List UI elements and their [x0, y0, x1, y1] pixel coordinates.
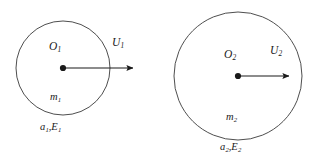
particle-2-mass-subscript: 2: [234, 116, 237, 123]
particle-2-center-subscript: 2: [232, 53, 236, 62]
particle-1-mass-label: m1: [50, 92, 61, 103]
particle-1-modulus-symbol: E: [51, 121, 57, 132]
particle-2-center-label: O2: [224, 49, 236, 61]
particle-1-mass-subscript: 1: [58, 96, 61, 103]
particle-2-properties-label: a2,E2: [220, 142, 241, 153]
particle-2-mass-symbol: m: [226, 111, 234, 122]
particle-2-modulus-subscript: 2: [238, 146, 241, 153]
particle-1-center-dot: [60, 65, 66, 71]
particle-1-velocity-subscript: 1: [120, 41, 124, 50]
particle-2-mass-label: m2: [226, 112, 237, 123]
particle-2-velocity-label: U2: [270, 45, 282, 57]
particle-2-velocity-subscript: 2: [278, 49, 282, 58]
particle-1-mass-symbol: m: [50, 91, 58, 102]
particle-1-modulus-subscript: 1: [58, 126, 61, 133]
particle-1-velocity-label: U1: [112, 37, 124, 49]
particle-2-center-dot: [235, 73, 241, 79]
particle-1-radius-subscript: 1: [45, 126, 48, 133]
particle-2-radius-subscript: 2: [225, 146, 228, 153]
particle-1-center-label: O1: [49, 41, 61, 53]
particle-1-properties-label: a1,E1: [40, 122, 61, 133]
particle-1-center-subscript: 1: [57, 45, 61, 54]
particle-2-modulus-symbol: E: [231, 141, 237, 152]
diagram-canvas: [0, 0, 324, 166]
physics-diagram-figure: O1 U1 m1 a1,E1 O2 U2 m2 a2,E2: [0, 0, 324, 166]
